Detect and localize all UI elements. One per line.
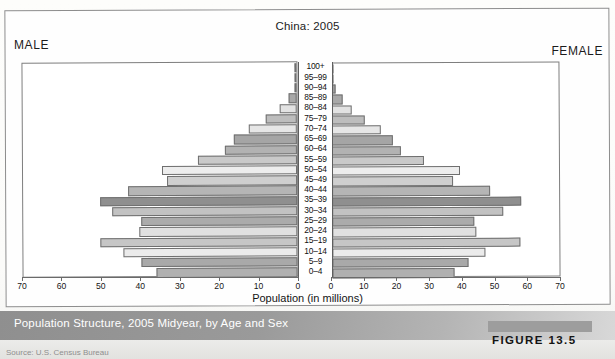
- age-group-label: 70–74: [299, 124, 332, 133]
- age-group-label: 0–4: [299, 267, 332, 276]
- figure-number: FIGURE 13.5: [492, 334, 576, 346]
- female-bar-row: [332, 104, 559, 114]
- female-bar-row: [332, 227, 559, 237]
- male-axis-line: [22, 277, 298, 278]
- male-bar-row: [23, 247, 297, 258]
- female-bar: [332, 95, 343, 104]
- female-bar-row: [332, 155, 559, 165]
- female-bar: [332, 227, 476, 237]
- female-bar-row: [332, 165, 559, 175]
- age-group-label: 35–39: [299, 195, 332, 204]
- female-bar-row: [332, 186, 559, 196]
- x-axis-tick-label: 30: [175, 281, 185, 291]
- x-axis-tick-label: 0: [296, 281, 301, 291]
- x-axis-tick-label: 70: [17, 281, 27, 291]
- male-bar-row: [23, 257, 297, 268]
- age-group-label: 55–59: [299, 155, 332, 164]
- x-axis-tick-label: 60: [523, 281, 533, 291]
- age-group-label: 80–84: [299, 103, 332, 112]
- female-bar-row: [332, 114, 559, 124]
- male-bar-row: [23, 186, 297, 197]
- female-bar: [332, 105, 352, 114]
- x-axis-tick-label: 20: [214, 281, 224, 291]
- female-bar: [332, 207, 503, 217]
- male-bar-row: [23, 94, 297, 105]
- age-group-label: 100+: [299, 62, 332, 71]
- male-bar: [128, 186, 297, 196]
- female-bar-row: [332, 176, 559, 186]
- male-bar: [100, 196, 297, 206]
- male-bar: [124, 247, 298, 257]
- male-bar-row: [23, 145, 297, 156]
- male-bar: [289, 94, 297, 103]
- male-bar: [139, 227, 297, 237]
- female-bar: [332, 115, 365, 124]
- male-bar-row: [23, 104, 297, 115]
- age-group-label: 5–9: [299, 257, 332, 266]
- x-axis-tick-label: 20: [392, 281, 402, 291]
- male-bar: [294, 73, 296, 82]
- male-bar-row: [23, 135, 297, 146]
- male-bar: [100, 237, 297, 247]
- female-bar: [332, 156, 424, 166]
- female-plot-panel: [330, 61, 560, 277]
- female-bar-row: [332, 83, 559, 93]
- male-bar: [265, 114, 296, 123]
- age-group-label: 50–54: [299, 165, 332, 174]
- male-bar-row: [22, 63, 296, 74]
- age-group-axis: 100+95–9990–9485–8980–8475–7970–7465–696…: [298, 62, 333, 277]
- age-group-label: 75–79: [299, 114, 332, 123]
- age-group-label: 60–64: [299, 144, 332, 153]
- male-bar-row: [23, 165, 297, 176]
- female-bar: [332, 196, 521, 206]
- male-plot-panel: [21, 61, 298, 277]
- male-bar-row: [23, 216, 297, 227]
- age-group-label: 25–29: [299, 216, 332, 225]
- male-bar: [141, 216, 298, 226]
- male-bar: [162, 165, 297, 175]
- age-group-label: 65–69: [299, 134, 332, 143]
- female-bar: [332, 136, 393, 146]
- pyramid-plot: 100+95–9990–9485–8980–8475–7970–7465–696…: [0, 0, 615, 305]
- female-bar-row: [332, 247, 559, 257]
- age-group-label: 10–14: [299, 247, 332, 256]
- female-bar-row: [332, 196, 559, 206]
- male-bar: [234, 135, 297, 145]
- female-bar-row: [332, 217, 559, 227]
- x-axis-tick-label: 30: [424, 281, 434, 291]
- male-bar: [113, 206, 298, 216]
- male-bar-row: [23, 176, 297, 187]
- male-bar: [294, 63, 296, 72]
- x-axis-tick-label: 70: [555, 281, 565, 291]
- female-bar: [332, 166, 460, 176]
- age-group-label: 40–44: [299, 185, 332, 194]
- x-axis-tick-label: 60: [57, 281, 67, 291]
- x-axis-tick-label: 50: [490, 281, 500, 291]
- male-bar: [248, 124, 297, 134]
- male-bar: [167, 176, 297, 186]
- female-bar: [332, 146, 401, 156]
- female-bar: [332, 176, 453, 186]
- female-bar-row: [332, 258, 559, 268]
- scanned-page: China: 2005 MALE FEMALE 100+95–9990–9485…: [0, 0, 615, 359]
- x-axis-tick-label: 10: [359, 281, 369, 291]
- female-bar-row: [332, 135, 559, 145]
- age-group-label: 85–89: [299, 93, 332, 102]
- female-bar-row: [332, 94, 559, 104]
- x-axis-tick-label: 40: [457, 281, 467, 291]
- female-bar: [332, 186, 490, 196]
- male-bar-row: [23, 114, 297, 125]
- female-bar: [332, 258, 468, 268]
- age-group-label: 30–34: [299, 206, 332, 215]
- x-axis-tick-label: 50: [96, 281, 106, 291]
- male-bar-group: [22, 62, 297, 276]
- female-bar-row: [331, 63, 558, 73]
- female-bar-row: [332, 237, 559, 247]
- age-group-label: 45–49: [299, 175, 332, 184]
- male-bar-row: [23, 237, 297, 248]
- male-bar: [279, 104, 296, 113]
- age-group-label: 15–19: [299, 236, 332, 245]
- female-bar-row: [332, 124, 559, 134]
- male-bar: [198, 155, 297, 165]
- x-axis-tick-label: 40: [136, 281, 146, 291]
